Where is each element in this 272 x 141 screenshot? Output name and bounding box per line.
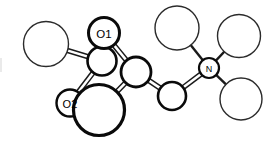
atom-label-nitrogen-center: N [206,64,213,74]
atom-large-sphere-bottom-center [74,85,125,136]
molecular-diagram-canvas: O1O2N [0,0,272,141]
atom-terminal-sphere-n-upper-left [155,6,199,50]
bond-a7-a8-edge-1 [180,71,203,88]
atom-layer [24,6,263,136]
atom-terminal-sphere-n-lower-right [220,78,262,120]
atom-terminal-sphere-n-upper-right [218,15,261,58]
atom-terminal-sphere-upper-left [24,22,69,67]
atom-ring-atom-right [121,57,151,87]
left-edge-artifact [0,58,2,72]
atom-ring-atom-left [88,47,117,76]
atom-bridge-atom [158,82,186,110]
bond-a7-a8-edge-0 [182,74,205,91]
atom-label-oxygen-o2: O2 [63,98,78,110]
atom-label-oxygen-o1: O1 [96,28,111,40]
molecule-svg: O1O2N [0,0,272,141]
